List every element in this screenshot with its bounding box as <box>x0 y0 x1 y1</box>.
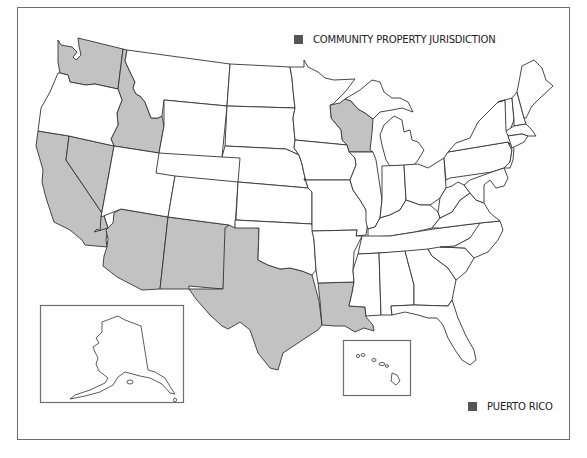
state-michigan-lower[interactable] <box>380 116 424 166</box>
legend-puerto-rico-label: PUERTO RICO <box>487 401 553 412</box>
state-kansas[interactable] <box>236 182 312 224</box>
state-maine[interactable] <box>517 60 553 118</box>
us-map <box>0 0 587 458</box>
state-hawaii[interactable] <box>356 354 400 386</box>
legend-swatch-icon <box>294 35 303 44</box>
alaska-island <box>174 398 177 402</box>
state-florida[interactable] <box>391 300 476 365</box>
hawaii-inset-box <box>344 341 411 396</box>
state-new-mexico[interactable] <box>160 217 229 289</box>
state-wyoming[interactable] <box>159 100 227 157</box>
alaska-kodiak-island <box>127 380 133 384</box>
state-arizona[interactable] <box>103 209 168 290</box>
legend-swatch-icon <box>468 402 477 411</box>
state-utah[interactable] <box>101 146 175 217</box>
legend-puerto-rico: PUERTO RICO <box>468 401 553 412</box>
legend-community-property: COMMUNITY PROPERTY JURISDICTION <box>294 34 495 45</box>
state-connecticut-ri[interactable] <box>508 134 528 148</box>
state-north-dakota[interactable] <box>227 64 295 108</box>
state-alaska[interactable] <box>70 316 175 399</box>
legend-community-property-label: COMMUNITY PROPERTY JURISDICTION <box>313 34 495 45</box>
